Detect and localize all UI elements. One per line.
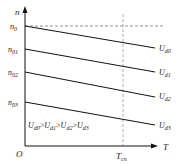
- tick-n0: n0: [10, 22, 17, 32]
- line-ud0: [25, 26, 155, 48]
- line-ud2: [25, 72, 155, 97]
- tick-n03: n03: [8, 98, 18, 108]
- line-ud1: [25, 49, 155, 72]
- tcn-label: Tcn: [116, 151, 127, 162]
- label-ud2: Ud2: [159, 92, 171, 102]
- label-ud3: Ud3: [159, 121, 171, 131]
- relation-text: Ud0>Ud1>Ud2>Ud3: [28, 121, 89, 131]
- x-axis-label: T: [163, 142, 169, 152]
- x-axis-arrow-icon: [151, 144, 158, 149]
- label-ud0: Ud0: [159, 44, 171, 54]
- tick-n02: n02: [8, 68, 18, 78]
- y-axis-label: n: [15, 7, 20, 17]
- tick-n01: n01: [8, 45, 18, 55]
- origin-label: O: [16, 149, 23, 159]
- y-axis-arrow-icon: [23, 6, 28, 13]
- speed-torque-diagram: n T O Tcn n0 n01 n02 n03 Ud0 Ud1 Ud2 Ud3…: [0, 0, 183, 164]
- label-ud1: Ud1: [159, 68, 171, 78]
